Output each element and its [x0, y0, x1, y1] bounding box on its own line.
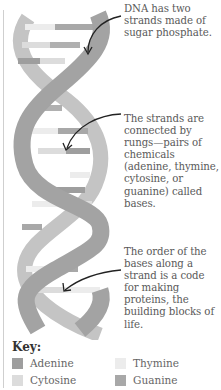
key-item-adenine: Adenine	[12, 357, 74, 369]
key-label: Guanine	[133, 374, 178, 386]
key-item-thymine: Thymine	[115, 357, 179, 369]
key-item-cytosine: Cytosine	[12, 374, 76, 386]
annotation-rungs: The strands are connected by rungs—pairs…	[124, 113, 220, 210]
key-label: Thymine	[133, 357, 179, 369]
thymine-swatch-icon	[115, 358, 126, 369]
guanine-swatch-icon	[115, 375, 126, 386]
annotation-order: The order of the bases along a strand is…	[124, 246, 220, 331]
key-title: Key:	[12, 340, 41, 354]
key-label: Adenine	[30, 357, 74, 369]
annotation-strands: DNA has two strands made of sugar phosph…	[124, 3, 220, 39]
cytosine-swatch-icon	[12, 375, 23, 386]
key-label: Cytosine	[30, 374, 76, 386]
adenine-swatch-icon	[12, 358, 23, 369]
key-item-guanine: Guanine	[115, 374, 178, 386]
